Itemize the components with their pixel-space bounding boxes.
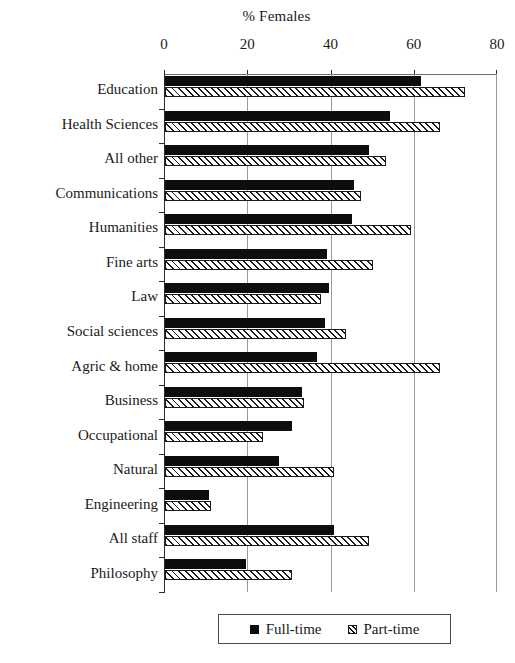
- y-label-philosophy: Philosophy: [0, 564, 158, 581]
- bar-group: [164, 74, 497, 109]
- bar-full-time: [165, 249, 327, 259]
- y-label-education: Education: [0, 81, 158, 98]
- bar-part-time: [165, 363, 440, 373]
- plot-area: [164, 74, 497, 592]
- bar-part-time: [165, 87, 465, 97]
- bar-group: [164, 488, 497, 523]
- bar-part-time: [165, 225, 411, 235]
- bar-group: [164, 212, 497, 247]
- bar-part-time: [165, 294, 321, 304]
- legend-item-full-time[interactable]: Full-time: [250, 621, 322, 638]
- bar-part-time: [165, 398, 304, 408]
- y-label-health-sciences: Health Sciences: [0, 115, 158, 132]
- legend-item-part-time[interactable]: Part-time: [348, 621, 420, 638]
- legend-label: Full-time: [266, 621, 322, 638]
- bar-group: [164, 143, 497, 178]
- bar-full-time: [165, 352, 317, 362]
- bar-full-time: [165, 111, 390, 121]
- bar-group: [164, 109, 497, 144]
- y-label-natural: Natural: [0, 461, 158, 478]
- hatched-square-icon: [348, 625, 357, 634]
- legend: Full-timePart-time: [218, 614, 451, 644]
- y-label-occupational: Occupational: [0, 426, 158, 443]
- bar-part-time: [165, 156, 386, 166]
- x-tick-label-60: 60: [406, 36, 421, 53]
- bar-full-time: [165, 525, 334, 535]
- bar-part-time: [165, 329, 346, 339]
- bar-group: [164, 557, 497, 592]
- y-label-all-staff: All staff: [0, 530, 158, 547]
- bar-part-time: [165, 501, 211, 511]
- bar-part-time: [165, 432, 263, 442]
- bar-part-time: [165, 191, 361, 201]
- x-axis-tick-labels: 020406080: [0, 36, 515, 56]
- chart-title: % Females: [0, 8, 515, 25]
- bar-part-time: [165, 536, 369, 546]
- bar-part-time: [165, 570, 292, 580]
- x-tick-label-20: 20: [240, 36, 255, 53]
- bar-group: [164, 316, 497, 351]
- y-axis-category-labels: EducationHealth SciencesAll otherCommuni…: [0, 74, 158, 592]
- bar-full-time: [165, 283, 329, 293]
- x-tick-label-40: 40: [323, 36, 338, 53]
- y-axis-tick: [159, 592, 165, 593]
- y-label-all-other: All other: [0, 150, 158, 167]
- bar-group: [164, 247, 497, 282]
- legend-label: Part-time: [364, 621, 420, 638]
- bar-part-time: [165, 260, 373, 270]
- bar-group: [164, 385, 497, 420]
- bar-group: [164, 419, 497, 454]
- bar-group: [164, 454, 497, 489]
- bar-full-time: [165, 559, 246, 569]
- x-tick-label-0: 0: [160, 36, 168, 53]
- bar-full-time: [165, 456, 279, 466]
- bar-group: [164, 178, 497, 213]
- bar-group: [164, 350, 497, 385]
- y-label-business: Business: [0, 392, 158, 409]
- bar-full-time: [165, 318, 325, 328]
- bar-full-time: [165, 76, 421, 86]
- bar-full-time: [165, 387, 302, 397]
- y-label-social-sciences: Social sciences: [0, 323, 158, 340]
- bar-part-time: [165, 467, 334, 477]
- bar-full-time: [165, 421, 292, 431]
- solid-square-icon: [250, 625, 259, 634]
- y-label-law: Law: [0, 288, 158, 305]
- bar-group: [164, 281, 497, 316]
- y-label-humanities: Humanities: [0, 219, 158, 236]
- bar-chart: % Females 020406080 EducationHealth Scie…: [0, 0, 515, 663]
- bar-part-time: [165, 122, 440, 132]
- x-tick-label-80: 80: [490, 36, 505, 53]
- bar-full-time: [165, 145, 369, 155]
- bar-full-time: [165, 490, 209, 500]
- bar-full-time: [165, 214, 352, 224]
- bar-full-time: [165, 180, 354, 190]
- y-label-fine-arts: Fine arts: [0, 253, 158, 270]
- y-label-engineering: Engineering: [0, 495, 158, 512]
- y-label-agric-home: Agric & home: [0, 357, 158, 374]
- bar-group: [164, 523, 497, 558]
- y-label-communications: Communications: [0, 184, 158, 201]
